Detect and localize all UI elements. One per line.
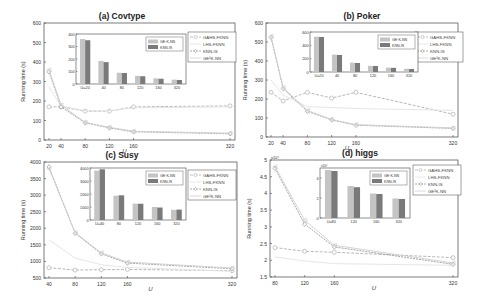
- inset-legend-label: GE²K-NN: [160, 174, 176, 178]
- y-tick-label: 500: [255, 39, 264, 45]
- inset-y-tick: 0: [86, 219, 88, 223]
- x-tick-label: 160: [330, 280, 339, 286]
- inset-bar: [140, 76, 145, 84]
- y-tick-label: 4: [264, 190, 267, 196]
- inset-x-tick: 320: [406, 74, 412, 78]
- y-tick-label: 400: [255, 58, 264, 64]
- y-tick-label: 3000: [30, 192, 41, 198]
- inset-bar: [159, 79, 164, 84]
- y-tick-label: 2000: [30, 225, 41, 231]
- y-axis-label: Running time (s): [242, 60, 248, 101]
- inset-bar: [347, 186, 353, 218]
- y-tick-label: 3: [264, 224, 267, 230]
- y-tick-label: 3500: [30, 176, 41, 182]
- legend-label: LHS-FKNN: [203, 42, 225, 47]
- x-tick-label: 160: [123, 281, 132, 287]
- inset-bar: [117, 73, 122, 84]
- inset-bar: [399, 199, 405, 218]
- x-tick-label: 40: [58, 143, 64, 149]
- inset-bar: [176, 210, 181, 220]
- main-legend: GAHS-FKNNLHS-FKNNKNN-ISGE²K-NN: [188, 170, 236, 200]
- y-axis-label: Running time (s): [20, 61, 26, 102]
- x-axis-label: U: [148, 286, 153, 292]
- legend-label: GE²K-NN: [203, 56, 221, 61]
- inset-x-tick: 80: [353, 74, 357, 78]
- inset-bar: [325, 170, 331, 218]
- x-tick-label: 160: [352, 140, 361, 146]
- y-tick-label: 0: [260, 134, 263, 140]
- inset-bar: [392, 199, 398, 219]
- series-line-lhs-fknn: [49, 87, 230, 110]
- inset-x-tick: 160: [373, 220, 379, 224]
- inset-legend-label: KNN-IS: [384, 180, 397, 184]
- inset-x-tick: 320: [174, 86, 180, 90]
- legend-label: KNN-IS: [428, 182, 443, 187]
- inset-legend-label: GE²K-NN: [160, 40, 176, 44]
- subplot-4: (d) higgs1.522.533.544.55x10⁴80120160320…: [246, 148, 461, 291]
- inset-x-tick: 80: [117, 222, 121, 226]
- subplot-3: (c) Susy50010001500200025003000350040004…: [20, 150, 237, 292]
- inset-y-tick: 100: [68, 70, 74, 74]
- inset-bar: [373, 66, 378, 72]
- y-tick-label: 4000: [30, 159, 41, 165]
- inset-bar: [98, 61, 103, 84]
- x-tick-label: 40: [46, 281, 52, 287]
- x-tick-label: 160: [129, 143, 138, 149]
- inset-legend-label: GE²K-NN: [384, 174, 400, 178]
- inset-bar: [85, 40, 90, 84]
- inset-bar: [391, 68, 396, 72]
- inset-bar: [355, 63, 360, 72]
- inset-bar: [177, 80, 182, 84]
- inset-bar: [386, 68, 391, 72]
- y-tick-label: 100: [33, 118, 42, 124]
- inset-y-tick: 2: [316, 197, 318, 201]
- inset-x-tick: 80: [120, 86, 124, 90]
- inset-x-tick: 120: [351, 220, 357, 224]
- inset-x-tick: U=20: [81, 86, 90, 90]
- inset-x-tick: U=40: [95, 222, 104, 226]
- x-tick-label: 120: [327, 140, 336, 146]
- inset-bar: [138, 204, 143, 220]
- y-axis-label: Running time (s): [246, 198, 252, 239]
- inset-x-tick: U=20: [314, 74, 323, 78]
- y-tick-label: 5: [264, 157, 267, 163]
- series-line-lhs-fknn: [271, 80, 453, 110]
- y-tick-label: 100: [255, 115, 264, 121]
- legend-label: LHS-FKNN: [430, 42, 452, 47]
- inset-scale-label: x10⁴: [321, 164, 328, 168]
- inset-bar-chart: 0100200300400U=204080120160320GE²K-NNKNN…: [68, 33, 186, 91]
- x-tick-label: 120: [300, 280, 309, 286]
- inset-x-tick: 160: [155, 86, 161, 90]
- inset-x-tick: 40: [335, 74, 339, 78]
- x-tick-label: 80: [72, 281, 78, 287]
- inset-y-tick: 1000: [80, 206, 88, 210]
- inset-bar-chart: 01000200030004000U=4080120160320GE²K-NNK…: [80, 167, 186, 227]
- inset-y-tick: 400: [302, 44, 308, 48]
- x-tick-label: 20: [46, 143, 52, 149]
- subplot-title: (b) Poker: [344, 11, 382, 21]
- y-tick-label: 500: [33, 275, 42, 281]
- y-tick-label: 2: [264, 257, 267, 263]
- y-tick-label: 600: [255, 20, 264, 26]
- y-tick-label: 200: [33, 98, 42, 104]
- x-tick-label: 320: [228, 281, 237, 287]
- inset-x-tick: 320: [173, 222, 179, 226]
- inset-bar: [409, 69, 414, 72]
- subplot-title: (c) Susy: [105, 150, 138, 160]
- legend-label: KNN-IS: [203, 49, 218, 54]
- legend-label: GAHS-FKNN: [430, 35, 455, 40]
- inset-bar: [113, 196, 118, 220]
- inset-x-tick: 120: [137, 86, 143, 90]
- inset-bar: [133, 204, 138, 220]
- legend-label: GAHS-FKNN: [428, 168, 453, 173]
- y-tick-label: 2500: [30, 209, 41, 215]
- inset-y-tick: 200: [68, 58, 74, 62]
- x-axis-label: U: [372, 285, 377, 291]
- inset-y-tick: 600: [302, 31, 308, 35]
- y-axis-label: Running time (s): [20, 200, 26, 241]
- inset-bar: [119, 195, 124, 220]
- x-tick-label: 320: [226, 143, 235, 149]
- inset-y-tick: 2000: [80, 193, 88, 197]
- y-tick-label: 400: [33, 59, 42, 65]
- x-tick-label: 20: [268, 140, 274, 146]
